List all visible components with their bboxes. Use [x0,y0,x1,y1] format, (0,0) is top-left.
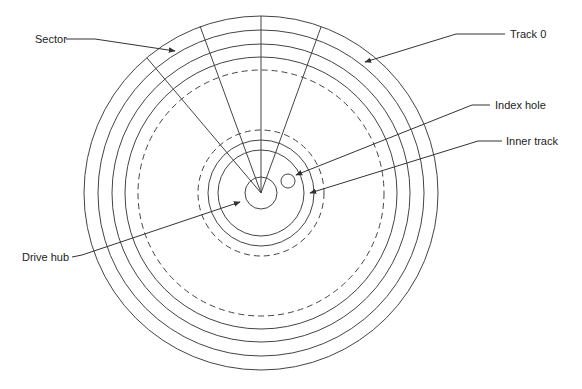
index-hole-leader [296,105,490,175]
index-hole-label: Index hole [495,99,546,111]
sector-line [200,26,261,193]
sector-line [147,58,261,193]
drive-hub-leader [72,202,240,257]
sector-label: Sector [35,33,67,45]
inner-track-label: Inner track [506,135,558,147]
index-hole-circle [281,174,295,188]
drive-hub-label: Drive hub [22,251,69,263]
track0-label: Track 0 [510,28,546,40]
inner-track-leader [310,141,502,193]
disk-diagram [0,0,582,389]
track0-leader [365,34,505,62]
